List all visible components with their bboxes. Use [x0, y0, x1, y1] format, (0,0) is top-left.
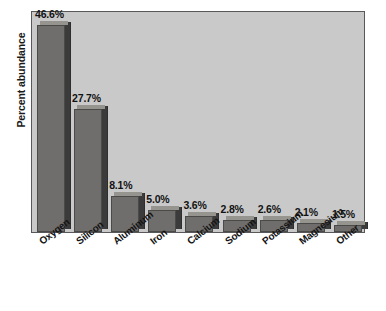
- bar-chart: Percent abundance 46.6%27.7%8.1%5.0%3.6%…: [0, 0, 386, 311]
- bar-top-face: [40, 21, 68, 25]
- bar-value-label: 2.8%: [221, 203, 244, 215]
- bar-value-label: 46.6%: [35, 8, 64, 20]
- bar-side-face: [65, 22, 71, 229]
- bar-oxygen: [37, 25, 65, 232]
- bar-value-label: 8.1%: [109, 179, 132, 191]
- bar-silicon: [74, 109, 102, 232]
- bar-value-label: 27.7%: [72, 92, 101, 104]
- bar-top-face: [151, 206, 179, 210]
- bar-top-face: [77, 105, 105, 109]
- bar-value-label: 2.6%: [258, 203, 281, 215]
- bar-value-label: 3.6%: [183, 199, 206, 211]
- bar-side-face: [102, 106, 108, 229]
- bar-face: [37, 25, 65, 232]
- plot-area: 46.6%27.7%8.1%5.0%3.6%2.8%2.6%2.1%1.5%: [31, 11, 365, 233]
- bar-side-face: [176, 207, 182, 229]
- bar-top-face: [114, 192, 142, 196]
- bar-face: [74, 109, 102, 232]
- bar-value-label: 5.0%: [146, 193, 169, 205]
- bars-layer: 46.6%27.7%8.1%5.0%3.6%2.8%2.6%2.1%1.5%: [32, 12, 364, 232]
- y-axis-title: Percent abundance: [15, 15, 27, 145]
